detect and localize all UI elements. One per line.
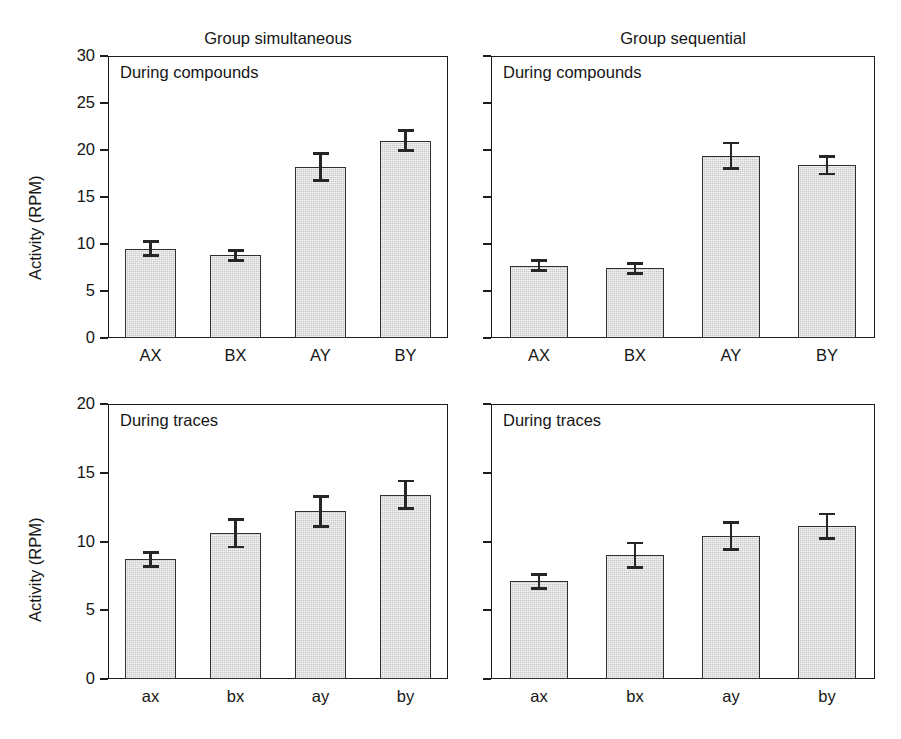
x-tick-label-AY: AY — [281, 346, 361, 365]
bar-AX — [125, 249, 176, 338]
x-tick-label-ax: ax — [111, 687, 191, 706]
bar-AY — [702, 156, 760, 338]
error-bar-cap-bottom — [531, 269, 547, 272]
error-bar-cap-bottom — [627, 566, 643, 569]
y-tick-label-10: 10 — [77, 233, 95, 253]
panel-sequential-compounds: During compounds — [491, 56, 875, 338]
y-tick-mark — [100, 609, 108, 611]
x-tick-label-bx: bx — [595, 687, 675, 706]
bar-slot — [606, 56, 664, 338]
x-tick-label-bx: bx — [196, 687, 276, 706]
error-bar-cap-top — [531, 573, 547, 576]
plot-area — [108, 56, 448, 338]
error-bar-cap-top — [531, 259, 547, 262]
y-tick-mark — [483, 290, 491, 292]
plot-area — [491, 56, 875, 338]
error-bar-cap-top — [819, 155, 835, 158]
error-bar-cap-bottom — [723, 548, 739, 551]
y-tick-mark — [483, 541, 491, 543]
error-bar-stem — [234, 518, 237, 548]
y-tick-mark — [100, 290, 108, 292]
y-tick-mark — [483, 337, 491, 339]
bar-by — [798, 526, 856, 679]
error-bar-cap-bottom — [313, 179, 329, 182]
y-tick-label-15: 15 — [77, 462, 95, 482]
bar-slot — [210, 56, 261, 338]
error-bar-cap-bottom — [723, 167, 739, 170]
error-bar-stem — [730, 521, 733, 551]
bar-slot — [295, 404, 346, 679]
x-tick-label-BY: BY — [366, 346, 446, 365]
bar-slot — [210, 404, 261, 679]
bar-BX — [606, 268, 664, 338]
error-bar-stem — [634, 542, 637, 570]
bar-BY — [380, 141, 431, 338]
bar-AX — [510, 266, 568, 338]
error-bar-cap-bottom — [398, 507, 414, 510]
x-tick-label-AX: AX — [499, 346, 579, 365]
bar-AY — [295, 167, 346, 338]
x-tick-label-BX: BX — [595, 346, 675, 365]
y-tick-mark — [100, 243, 108, 245]
x-tick-label-AX: AX — [111, 346, 191, 365]
bar-slot — [798, 404, 856, 679]
x-tick-label-ax: ax — [499, 687, 579, 706]
panel-simultaneous-compounds: During compounds — [108, 56, 448, 338]
plot-area — [108, 404, 448, 679]
error-bar-stem — [730, 142, 733, 170]
bar-slot — [798, 56, 856, 338]
y-axis-label-row-bottom: Activity (RPM) — [26, 518, 45, 623]
bar-bx — [210, 533, 261, 679]
y-tick-mark — [100, 55, 108, 57]
bar-slot — [702, 404, 760, 679]
y-tick-label-10: 10 — [77, 531, 95, 551]
error-bar-cap-bottom — [143, 254, 159, 257]
y-tick-mark — [100, 337, 108, 339]
bar-slot — [510, 404, 568, 679]
y-tick-label-5: 5 — [86, 599, 95, 619]
x-tick-label-BY: BY — [787, 346, 867, 365]
bar-slot — [702, 56, 760, 338]
error-bar-stem — [319, 152, 322, 182]
y-tick-mark — [100, 541, 108, 543]
bar-slot — [606, 404, 664, 679]
bar-slot — [510, 56, 568, 338]
y-tick-mark — [483, 102, 491, 104]
y-tick-label-30: 30 — [77, 45, 95, 65]
error-bar-stem — [404, 480, 407, 510]
error-bar-stem — [319, 495, 322, 528]
error-bar-cap-top — [723, 142, 739, 145]
y-tick-label-5: 5 — [86, 280, 95, 300]
bar-bx — [606, 555, 664, 679]
y-tick-mark — [100, 472, 108, 474]
y-tick-label-15: 15 — [77, 186, 95, 206]
error-bar-cap-bottom — [819, 537, 835, 540]
panel-simultaneous-traces: During traces — [108, 404, 448, 679]
y-tick-mark — [100, 102, 108, 104]
error-bar-cap-top — [398, 480, 414, 483]
error-bar-cap-bottom — [398, 149, 414, 152]
error-bar-cap-top — [723, 521, 739, 524]
bar-slot — [295, 56, 346, 338]
bar-slot — [125, 56, 176, 338]
bar-ay — [295, 511, 346, 679]
bar-by — [380, 495, 431, 679]
y-tick-mark — [100, 403, 108, 405]
y-tick-mark — [483, 403, 491, 405]
y-tick-label-20: 20 — [77, 393, 95, 413]
error-bar-cap-bottom — [228, 546, 244, 549]
error-bar-cap-top — [313, 152, 329, 155]
y-tick-mark — [483, 243, 491, 245]
panel-sequential-traces: During traces — [491, 404, 875, 679]
bar-ax — [510, 581, 568, 679]
error-bar-cap-top — [143, 551, 159, 554]
x-tick-label-AY: AY — [691, 346, 771, 365]
y-tick-mark — [483, 55, 491, 57]
x-tick-label-ay: ay — [281, 687, 361, 706]
error-bar-cap-top — [398, 129, 414, 132]
error-bar-stem — [826, 513, 829, 541]
bar-BX — [210, 255, 261, 338]
error-bar-cap-top — [228, 249, 244, 252]
error-bar-cap-bottom — [627, 272, 643, 275]
y-axis-label-row-top: Activity (RPM) — [26, 176, 45, 281]
